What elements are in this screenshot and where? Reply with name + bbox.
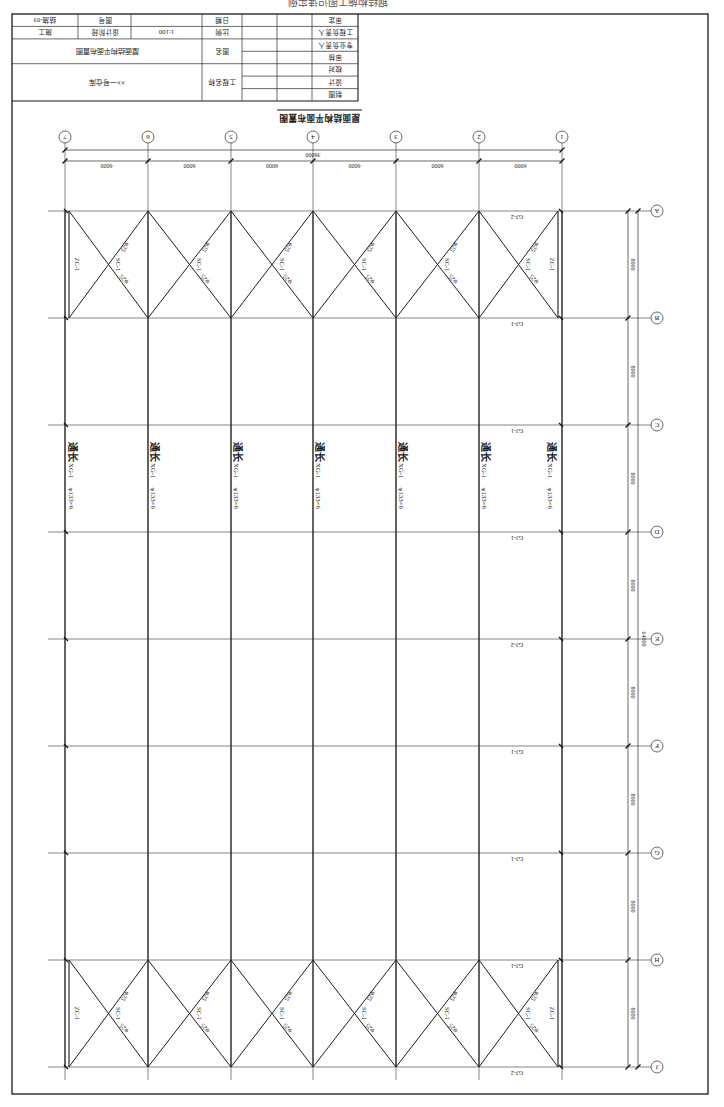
row-axis-label: D: [654, 528, 659, 536]
bracing-rod-size: φ25: [447, 273, 459, 285]
drawing-number-value: 结施-03: [33, 16, 56, 25]
bracing-code: SC-1: [525, 258, 532, 271]
drawing-sheet: 钢结构施工图识读实例 结施-03 图号 施工 设计阶段 1:100 日期 比例 …: [0, 0, 724, 1107]
bracing-code: SC-1: [525, 1007, 532, 1020]
roof-bracing-top-bay-4-5: SC-1 φ25 φ25: [279, 241, 295, 285]
bracing-rod-size: φ25: [118, 1022, 130, 1034]
column-axis-label: 7: [63, 133, 67, 141]
roof-bracing-top-bay-2-3: SC-1 φ25 φ25: [444, 241, 460, 285]
span-dimension-f-g: 8000: [630, 794, 636, 806]
title-block: 结施-03 图号 施工 设计阶段 1:100 日期 比例 图名 工程名称 屋面结…: [12, 14, 358, 101]
purlin-section: φ133×6: [150, 487, 157, 509]
purlin-label-axis-3: 通长XG-1φ133×6: [397, 442, 409, 509]
truss-label-d: GJ-1: [511, 535, 523, 542]
column-axis-label: 1: [560, 133, 564, 141]
bracing-code: SC-1: [361, 258, 368, 271]
truss-label-f: GJ-1: [511, 749, 523, 756]
bracing-code: SC-1: [279, 258, 286, 271]
page-header: 钢结构施工图识读实例: [288, 0, 388, 8]
bay-dimension-3-4: 6000: [349, 163, 361, 169]
bracing-rod-size: φ25: [366, 990, 378, 1002]
date-label: 日期: [215, 16, 229, 24]
signoff-role-discipline-lead: 专业负责人: [318, 41, 353, 50]
row-axis-label: A: [654, 207, 659, 215]
roof-bracing-bottom-bay-5-6: SC-1 φ25 φ25: [196, 990, 212, 1034]
bay-dimension-2-3: 6000: [432, 163, 444, 169]
bracing-rod-size: φ25: [281, 273, 293, 285]
truss-label-j: GJ-2: [511, 1070, 523, 1077]
truss-label-c: GJ-1: [511, 428, 523, 435]
purlin-name: 通长: [314, 442, 326, 463]
signoff-role-check: 校对: [328, 65, 342, 74]
project-name: ××一号仓库: [89, 78, 125, 87]
bracing-rod-size: φ25: [199, 273, 211, 285]
bracing-rod-size: φ25: [283, 990, 295, 1002]
purlin-label-axis-1: 通长XG-1φ133×6: [546, 442, 558, 509]
purlin-label-axis-7: 通长XG-1φ133×6: [67, 442, 79, 509]
bracing-code: SC-1: [444, 258, 451, 271]
truss-label-b: GJ-1: [511, 321, 523, 328]
truss-label-h: GJ-1: [511, 963, 523, 970]
roof-bracing-top-bay-1-2: SC-1 φ25 φ25: [525, 241, 541, 285]
row-axis-bubble-a: A: [651, 205, 663, 217]
roof-bracing-top-bay-6-7: SC-1 φ25 φ25: [115, 241, 131, 285]
row-axis-label: C: [654, 421, 659, 429]
bay-dimension-6-7: 6000: [101, 163, 113, 169]
bracing-rod-size: φ25: [364, 1022, 376, 1034]
span-dimension-g-h: 8000: [630, 901, 636, 913]
truss-label-e: GJ-2: [511, 642, 523, 649]
bracing-rod-size: φ25: [530, 990, 542, 1002]
bracing-rod-size: φ25: [364, 273, 376, 285]
row-axis-bubble-e: E: [651, 633, 663, 645]
row-axis-label: J: [655, 1063, 658, 1071]
bracing-rod-size: φ25: [201, 241, 213, 253]
bracing-rod-size: φ25: [199, 1022, 211, 1034]
design-stage-label: 设计阶段: [91, 28, 119, 37]
truss-label-a: GJ-2: [511, 214, 523, 221]
roof-bracing-bottom-bay-1-2: SC-1 φ25 φ25: [525, 990, 541, 1034]
roof-bracing-bottom-bay-6-7: SC-1 φ25 φ25: [115, 990, 131, 1034]
purlin-name: 通长: [480, 442, 492, 463]
column-bracing-label-1-hj: ZC-1: [549, 1007, 556, 1021]
column-axis-bubble-1: 1: [556, 131, 568, 143]
bay-dimension-5-6: 6000: [184, 163, 196, 169]
bracing-rod-size: φ25: [120, 990, 132, 1002]
column-axis-label: 3: [394, 133, 398, 141]
purlin-code: XG-1: [398, 463, 405, 478]
purlin-section: φ133×6: [547, 487, 554, 509]
purlin-label-axis-4: 通长XG-1φ133×6: [314, 442, 326, 509]
bracing-rod-size: φ25: [118, 273, 130, 285]
row-axis-label: F: [655, 742, 659, 750]
signoff-role-design: 设计: [328, 78, 342, 87]
signoff-role-draft: 制图: [328, 90, 342, 99]
roof-bracing-bottom-bay-4-5: SC-1 φ25 φ25: [279, 990, 295, 1034]
bracing-rod-size: φ25: [528, 1022, 540, 1034]
span-dimension-e-f: 8000: [630, 687, 636, 699]
purlin-name: 通长: [546, 442, 558, 463]
scale-label: 比例: [215, 28, 229, 37]
purlin-section: φ133×6: [481, 487, 488, 509]
purlin-label-axis-6: 通长XG-1φ133×6: [149, 442, 161, 509]
bracing-code: SC-1: [115, 1007, 122, 1020]
purlin-section: φ133×6: [233, 487, 240, 509]
purlin-label-axis-5: 通长XG-1φ133×6: [232, 442, 244, 509]
bracing-rod-size: φ25: [447, 1022, 459, 1034]
bracing-rod-size: φ25: [449, 241, 461, 253]
row-axis-label: B: [654, 314, 659, 322]
row-axis-label: G: [654, 849, 659, 857]
column-axis-bubble-4: 4: [307, 131, 319, 143]
bracing-rod-size: φ25: [201, 990, 213, 1002]
bracing-rod-size: φ25: [281, 1022, 293, 1034]
span-dimension-b-c: 8000: [630, 366, 636, 378]
column-axis-bubble-2: 2: [473, 131, 485, 143]
row-axis-label: H: [654, 956, 659, 964]
row-axis-bubble-b: B: [651, 312, 663, 324]
purlin-name: 通长: [149, 442, 161, 463]
span-dimension-h-j: 8000: [630, 1008, 636, 1020]
signoff-role-approve: 审定: [328, 16, 342, 25]
roof-bracing-top-bay-5-6: SC-1 φ25 φ25: [196, 241, 212, 285]
span-dimension-c-d: 8000: [630, 473, 636, 485]
bay-dimension-4-5: 6000: [266, 163, 278, 169]
column-axis-label: 5: [229, 133, 233, 141]
drawing-name-label: 图名: [215, 47, 229, 56]
